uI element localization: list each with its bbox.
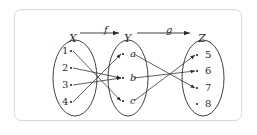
edge-f-1-to-c [73,51,121,101]
diagram-screenshot: XYZfg1234abc5678 [0,0,257,135]
element-dot-1 [70,50,72,52]
edge-g-a-to-7 [134,54,195,88]
element-label-7: 7 [205,83,211,93]
element-label-c: c [130,96,136,106]
element-label-6: 6 [205,66,211,76]
element-label-2: 2 [62,63,68,73]
map-label-f: f [104,25,108,35]
element-dot-c [122,100,124,102]
set-label-Z: Z [198,33,206,44]
element-dot-2 [70,67,72,69]
diagram-canvas [0,0,257,135]
element-dot-8 [196,103,198,105]
set-label-Y: Y [124,33,131,44]
element-label-5: 5 [205,50,211,60]
set-ellipse-Z [182,40,224,116]
edges-f-group [73,51,121,102]
element-dot-5 [196,54,198,56]
set-ellipse-Y [108,40,148,116]
edges-g-group [134,54,195,101]
element-label-a: a [130,49,136,59]
set-ellipses-group [53,40,224,116]
element-dot-4 [70,101,72,103]
element-label-3: 3 [62,80,68,90]
edge-g-c-to-5 [134,55,195,101]
map-label-g: g [166,25,172,35]
edge-f-4-to-a [73,54,121,102]
element-dot-b [122,77,124,79]
element-dot-a [122,53,124,55]
element-label-8: 8 [205,99,211,109]
element-dot-6 [196,70,198,72]
set-label-X: X [69,33,77,44]
element-label-b: b [130,73,136,83]
element-label-1: 1 [62,46,68,56]
set-ellipse-X [53,40,97,116]
element-label-4: 4 [62,97,68,107]
element-dot-7 [196,87,198,89]
element-dot-3 [70,84,72,86]
edge-g-b-to-6 [134,71,195,78]
